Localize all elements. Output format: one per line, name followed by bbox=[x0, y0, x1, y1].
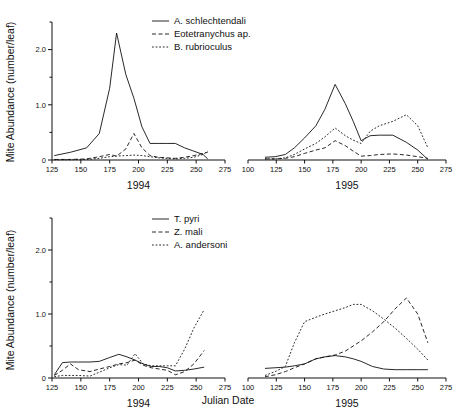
y-tick-label: 0 bbox=[42, 374, 46, 383]
x-tick-label: 125 bbox=[270, 383, 283, 392]
panel-year-label-1995: 1995 bbox=[335, 179, 359, 191]
series-line-b-rubrioculus bbox=[54, 151, 207, 160]
panel-pest-mites-1995: 100125150175200225250275 bbox=[242, 84, 453, 174]
x-tick-label: 125 bbox=[270, 165, 283, 174]
x-tick-label: 175 bbox=[103, 165, 116, 174]
series-line-t-pyri bbox=[265, 356, 428, 370]
y-tick-label: 0 bbox=[42, 156, 46, 165]
x-tick-label: 225 bbox=[383, 383, 396, 392]
series-line-a-schlechtendali bbox=[265, 84, 428, 159]
y-axis-title-bottom: Mite Abundance (number/leaf) bbox=[4, 230, 16, 371]
legend-bottom-item-label-0: T. pyri bbox=[174, 213, 199, 224]
x-tick-label: 200 bbox=[355, 383, 368, 392]
y-tick-label: 2.0 bbox=[36, 246, 46, 255]
x-tick-label: 225 bbox=[161, 165, 174, 174]
x-tick-label: 150 bbox=[75, 165, 88, 174]
x-tick-label: 250 bbox=[411, 383, 424, 392]
y-tick-label: 2.0 bbox=[36, 45, 46, 54]
series-line-a-andersoni bbox=[265, 304, 428, 375]
x-tick-label: 250 bbox=[411, 165, 424, 174]
x-tick-label: 100 bbox=[242, 383, 255, 392]
y-tick-label: 1.0 bbox=[36, 310, 46, 319]
x-tick-label: 150 bbox=[75, 383, 88, 392]
x-tick-label: 125 bbox=[46, 383, 59, 392]
x-tick-label: 175 bbox=[103, 383, 116, 392]
x-tick-label: 250 bbox=[190, 165, 203, 174]
x-tick-label: 275 bbox=[440, 383, 453, 392]
x-axis-title: Julian Date bbox=[202, 394, 255, 406]
x-tick-label: 200 bbox=[132, 383, 145, 392]
panel-predator-mites-1995: 100125150175200225250275 bbox=[242, 298, 453, 392]
x-tick-label: 100 bbox=[242, 165, 255, 174]
x-tick-label: 275 bbox=[219, 383, 232, 392]
legend-bottom-item-label-2: A. andersoni bbox=[174, 239, 227, 250]
y-axis-title-top: Mite Abundance (number/leaf) bbox=[4, 22, 16, 163]
series-line-b-rubrioculus bbox=[265, 115, 428, 159]
panel-year-label-1994: 1994 bbox=[127, 397, 151, 409]
chart-canvas: 12515017520022525027501.02.0199410012515… bbox=[0, 0, 457, 415]
x-tick-label: 275 bbox=[219, 165, 232, 174]
mite-abundance-figure: 12515017520022525027501.02.0199410012515… bbox=[0, 0, 457, 415]
legend-bottom-item-label-1: Z. mali bbox=[174, 226, 203, 237]
y-tick-label: 1.0 bbox=[36, 101, 46, 110]
x-tick-label: 150 bbox=[298, 165, 311, 174]
x-tick-label: 275 bbox=[440, 165, 453, 174]
series-line-eotetranychus-ap bbox=[265, 141, 428, 159]
x-tick-label: 250 bbox=[190, 383, 203, 392]
panel-year-label-1995: 1995 bbox=[335, 397, 359, 409]
x-tick-label: 175 bbox=[327, 165, 340, 174]
x-tick-label: 175 bbox=[327, 383, 340, 392]
legend-top-item-label-2: B. rubrioculus bbox=[174, 41, 232, 52]
x-tick-label: 200 bbox=[132, 165, 145, 174]
panel-year-label-1994: 1994 bbox=[127, 179, 151, 191]
legend-top-item-label-1: Eotetranychus ap. bbox=[174, 28, 251, 39]
x-tick-label: 150 bbox=[298, 383, 311, 392]
x-tick-label: 225 bbox=[161, 383, 174, 392]
x-tick-label: 125 bbox=[46, 165, 59, 174]
series-line-t-pyri bbox=[54, 354, 204, 374]
series-line-z-mali bbox=[265, 298, 428, 377]
series-line-a-andersoni bbox=[54, 310, 204, 377]
x-tick-label: 200 bbox=[355, 165, 368, 174]
x-tick-label: 225 bbox=[383, 165, 396, 174]
legend-top-item-label-0: A. schlechtendali bbox=[174, 15, 246, 26]
